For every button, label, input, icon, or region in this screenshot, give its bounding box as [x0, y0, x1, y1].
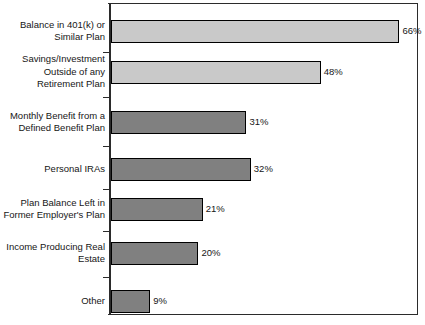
bar[interactable]	[111, 290, 150, 313]
category-label: Income Producing Real Estate	[0, 241, 105, 266]
bar-container: 21%	[111, 198, 225, 221]
category-label: Plan Balance Left in Former Employer's P…	[0, 197, 105, 222]
category-label: Other	[0, 295, 105, 308]
axis-tick	[103, 189, 110, 190]
bar-row: Monthly Benefit from a Defined Benefit P…	[0, 109, 425, 135]
bar-container: 20%	[111, 242, 220, 265]
bar-value-label: 21%	[206, 204, 225, 214]
bar[interactable]	[111, 111, 246, 134]
bar-chart: Balance in 401(k) or Similar Plan66%Savi…	[0, 0, 425, 325]
bar[interactable]	[111, 158, 251, 181]
bar-value-label: 31%	[249, 117, 268, 127]
bar-value-label: 20%	[201, 248, 220, 258]
bar-row: Savings/Investment Outside of any Retire…	[0, 59, 425, 85]
bar[interactable]	[111, 61, 321, 84]
category-label: Savings/Investment Outside of any Retire…	[0, 53, 105, 91]
bar-container: 32%	[111, 158, 273, 181]
bar-row: Plan Balance Left in Former Employer's P…	[0, 196, 425, 222]
bar-container: 48%	[111, 61, 343, 84]
bar-value-label: 48%	[324, 67, 343, 77]
bar[interactable]	[111, 198, 203, 221]
axis-tick	[103, 277, 110, 278]
bar-container: 31%	[111, 111, 268, 134]
bar[interactable]	[111, 242, 198, 265]
category-label: Monthly Benefit from a Defined Benefit P…	[0, 110, 105, 135]
bar-row: Personal IRAs32%	[0, 156, 425, 182]
bar-row: Other9%	[0, 288, 425, 314]
bar-row: Income Producing Real Estate20%	[0, 240, 425, 266]
bar-container: 9%	[111, 290, 167, 313]
bar-container: 66%	[111, 20, 421, 43]
category-label: Personal IRAs	[0, 163, 105, 176]
chart-frame-bottom	[108, 314, 418, 315]
bar-row: Balance in 401(k) or Similar Plan66%	[0, 18, 425, 44]
axis-tick	[103, 231, 110, 232]
category-label: Balance in 401(k) or Similar Plan	[0, 19, 105, 44]
bar-value-label: 9%	[153, 296, 167, 306]
bar[interactable]	[111, 20, 399, 43]
axis-tick	[103, 97, 110, 98]
bar-value-label: 32%	[254, 164, 273, 174]
bar-value-label: 66%	[402, 26, 421, 36]
bar-rows: Balance in 401(k) or Similar Plan66%Savi…	[0, 4, 425, 314]
axis-tick	[103, 146, 110, 147]
